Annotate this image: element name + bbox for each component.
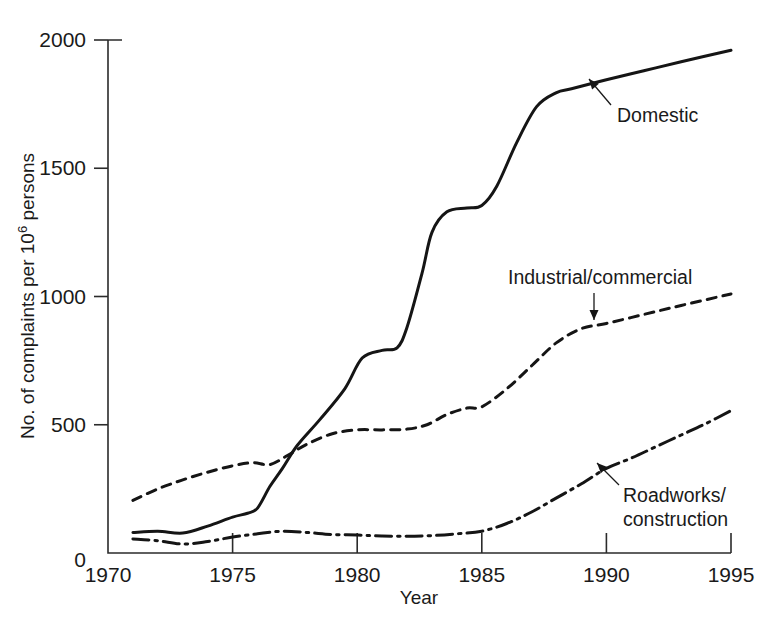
y-axis-tick-labels: 0500100015002000 bbox=[39, 28, 86, 571]
y-axis-title-suffix: persons bbox=[17, 153, 38, 226]
y-tick-label-500: 500 bbox=[51, 413, 86, 436]
y-tick-label-1000: 1000 bbox=[39, 285, 86, 308]
x-axis-title: Year bbox=[400, 587, 439, 608]
y-tick-label-1500: 1500 bbox=[39, 156, 86, 179]
axis-titles: Year No. of complaints per 106 persons bbox=[15, 153, 439, 608]
x-tick-label-1985: 1985 bbox=[458, 563, 505, 586]
annotation-arrow-head bbox=[590, 310, 599, 320]
chart-figure: 197019751980198519901995 050010001500200… bbox=[0, 0, 772, 624]
x-tick-label-1975: 1975 bbox=[209, 563, 256, 586]
chart-svg: 197019751980198519901995 050010001500200… bbox=[0, 0, 772, 624]
annotation-roadworks-construction: Roadworks/construction bbox=[597, 463, 728, 530]
x-tick-label-1980: 1980 bbox=[334, 563, 381, 586]
y-axis-title: No. of complaints per 106 persons bbox=[15, 153, 38, 439]
x-tick-label-1990: 1990 bbox=[583, 563, 630, 586]
series-label-line: Roadworks/ bbox=[623, 484, 727, 506]
x-tick-label-1970: 1970 bbox=[85, 563, 132, 586]
y-axis-ticks bbox=[94, 40, 108, 425]
y-axis-title-exponent: 6 bbox=[15, 226, 30, 233]
y-axis-title-prefix: No. of complaints per 10 bbox=[17, 233, 38, 439]
series-label-text: Industrial/commercial bbox=[508, 266, 692, 288]
series-label-line: Domestic bbox=[617, 104, 699, 126]
series-label-line: Industrial/commercial bbox=[508, 266, 692, 288]
y-tick-label-0: 0 bbox=[74, 548, 86, 571]
x-axis-tick-labels: 197019751980198519901995 bbox=[85, 563, 755, 586]
annotation-domestic: Domestic bbox=[589, 79, 699, 126]
series-label-line: construction bbox=[623, 508, 728, 530]
series-label-text: Roadworks/construction bbox=[623, 484, 728, 530]
y-tick-label-2000: 2000 bbox=[39, 28, 86, 51]
annotation-industrial-commercial: Industrial/commercial bbox=[508, 266, 692, 320]
series-line-industrial-commercial bbox=[133, 294, 731, 500]
series-label-text: Domestic bbox=[617, 104, 699, 126]
x-tick-label-1995: 1995 bbox=[708, 563, 755, 586]
